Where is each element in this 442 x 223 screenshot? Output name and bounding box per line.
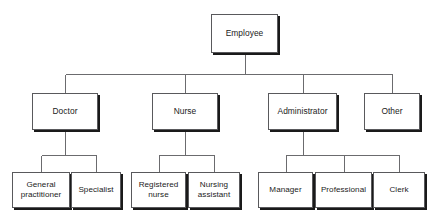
node-label: Administrator: [277, 107, 329, 117]
node-label: Clerk: [388, 185, 409, 195]
node-label: Registered nurse: [138, 180, 180, 199]
node-employee[interactable]: Employee: [211, 14, 278, 53]
node-manager[interactable]: Manager: [258, 172, 313, 208]
node-nursing-assistant[interactable]: Nursing assistant: [188, 172, 240, 208]
node-nurse[interactable]: Nurse: [152, 93, 218, 130]
node-specialist[interactable]: Specialist: [71, 172, 121, 208]
node-label: Manager: [268, 185, 302, 195]
node-label: Specialist: [77, 185, 114, 195]
node-label: Professional: [320, 185, 367, 195]
node-doctor[interactable]: Doctor: [32, 93, 98, 130]
node-administrator[interactable]: Administrator: [268, 93, 337, 130]
node-label: General practitioner: [20, 180, 63, 199]
node-label: Employee: [225, 29, 265, 39]
node-clerk[interactable]: Clerk: [373, 172, 425, 208]
org-chart: Employee Doctor Nurse Administrator Othe…: [0, 0, 442, 223]
node-label: Nurse: [173, 107, 198, 117]
node-label: Nursing assistant: [197, 180, 231, 199]
node-label: Other: [380, 107, 403, 117]
node-general-practitioner[interactable]: General practitioner: [12, 172, 70, 208]
node-label: Doctor: [52, 107, 79, 117]
node-professional[interactable]: Professional: [315, 172, 372, 208]
node-other[interactable]: Other: [364, 93, 420, 130]
node-registered-nurse[interactable]: Registered nurse: [131, 172, 186, 208]
